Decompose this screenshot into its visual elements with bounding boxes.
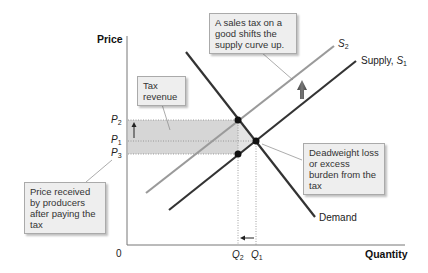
- tax-revenue-area: [128, 120, 238, 154]
- demand-label: Demand: [319, 212, 357, 223]
- origin-label: 0: [116, 248, 122, 259]
- price-label-p1: P1: [111, 134, 122, 148]
- sales-tax-callout: A sales tax on a good shifts the supply …: [209, 13, 297, 54]
- s2-label: S2: [338, 38, 349, 52]
- equilibrium-point-p1: [253, 138, 260, 145]
- x-axis-title: Quantity: [365, 249, 408, 260]
- y-axis-title: Price: [97, 34, 123, 45]
- price-label-p3: P3: [111, 147, 122, 161]
- price-label-p2: P2: [111, 114, 122, 128]
- equilibrium-point-p3: [235, 151, 242, 158]
- tax-revenue-callout: Tax revenue: [137, 76, 186, 106]
- producer-price-callout: Price received by producers after paying…: [24, 182, 106, 234]
- quantity-label-q1: Q1: [251, 249, 263, 263]
- equilibrium-point-p2: [235, 117, 242, 124]
- supply-s1-label: Supply, S1: [361, 55, 407, 69]
- quantity-label-q2: Q2: [232, 249, 244, 263]
- supply-shift-arrow-icon: [297, 80, 307, 99]
- deadweight-loss-callout: Deadweight loss or excess burden from th…: [303, 143, 385, 195]
- quantity-left-arrow-icon: [240, 236, 254, 241]
